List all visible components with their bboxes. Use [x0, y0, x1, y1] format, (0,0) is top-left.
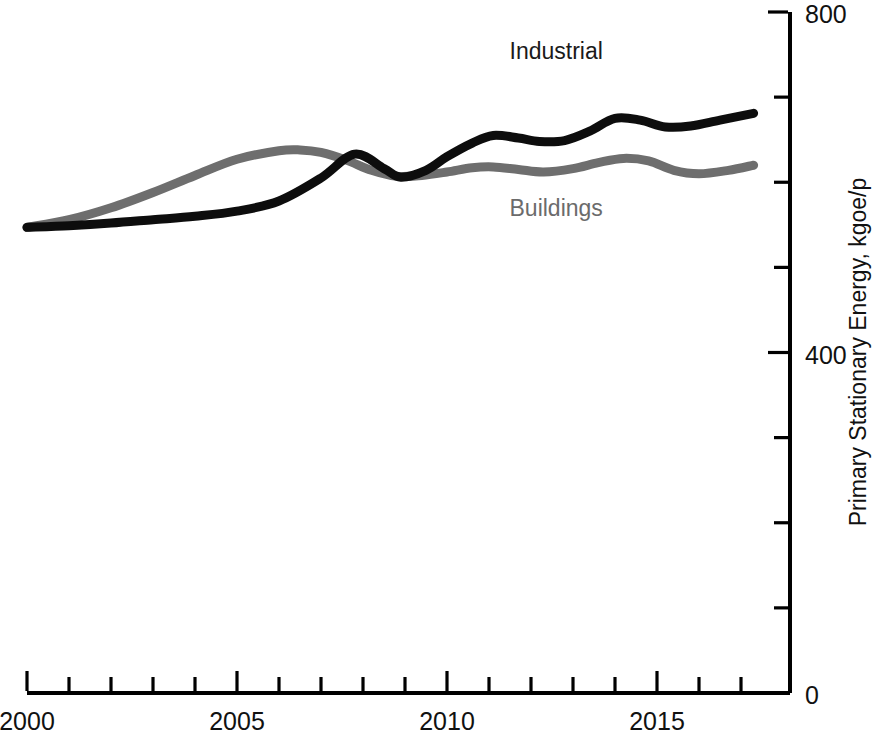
x-tick-label-2010: 2010 — [419, 707, 475, 735]
chart-figure: 2000 2005 2010 2015 800 400 0 Primary St… — [0, 0, 878, 740]
series-annotation-buildings: Buildings — [510, 195, 603, 221]
y-axis-title: Primary Stationary Energy, kgoe/p — [845, 178, 871, 527]
y-axis-ticks — [768, 12, 788, 693]
y-tick-label-0: 0 — [805, 681, 819, 709]
y-tick-label-400: 400 — [805, 341, 847, 369]
y-tick-label-800: 800 — [805, 0, 847, 28]
x-tick-label-2000: 2000 — [0, 707, 55, 735]
x-axis-ticks — [27, 671, 741, 691]
series-line-industrial — [27, 113, 754, 227]
series-line-buildings — [27, 150, 754, 228]
x-tick-label-2015: 2015 — [629, 707, 685, 735]
line-chart-svg: 2000 2005 2010 2015 800 400 0 Primary St… — [0, 0, 878, 740]
x-tick-label-2005: 2005 — [209, 707, 265, 735]
series-annotation-industrial: Industrial — [510, 38, 603, 64]
